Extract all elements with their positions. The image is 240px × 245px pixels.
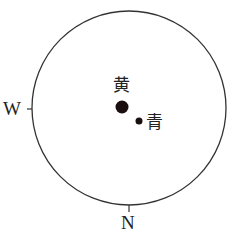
north-label: N xyxy=(121,213,135,232)
huang-point xyxy=(116,101,129,114)
west-label: W xyxy=(3,99,21,118)
qing-label: 青 xyxy=(146,114,163,131)
horizon-circle xyxy=(32,11,226,205)
sky-diagram: W N 黄 青 xyxy=(0,0,240,245)
diagram-canvas xyxy=(0,0,240,245)
huang-label: 黄 xyxy=(113,77,130,94)
qing-point xyxy=(136,118,143,125)
